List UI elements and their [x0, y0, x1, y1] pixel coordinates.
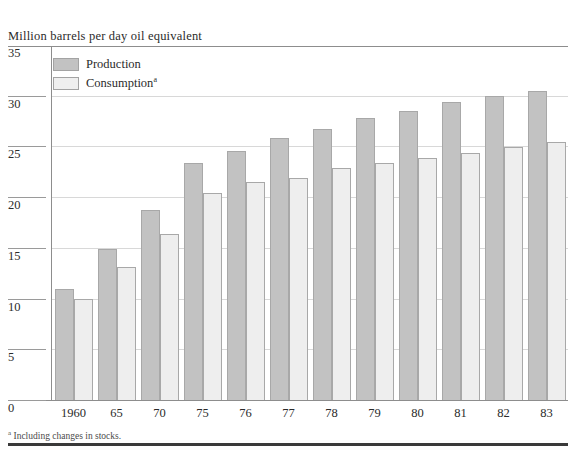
bottom-rule [8, 443, 568, 446]
y-axis-tick-label: 35 [8, 47, 21, 60]
bar-production-65[interactable] [98, 249, 117, 400]
bar-consumption-77[interactable] [289, 178, 308, 400]
x-axis-tick-label: 76 [224, 406, 267, 421]
bar-group [98, 45, 136, 400]
bar-group [485, 45, 523, 400]
bar-consumption-83[interactable] [547, 142, 566, 400]
y-axis-tick-label: 25 [8, 148, 21, 161]
chart-page: Million barrels per day oil equivalent 0… [0, 0, 576, 450]
bar-group [399, 45, 437, 400]
bar-consumption-1960[interactable] [74, 299, 93, 400]
bar-group [184, 45, 222, 400]
footnote-text: Including changes in stocks. [13, 431, 121, 441]
x-axis-tick-label: 79 [353, 406, 396, 421]
x-axis-tick-label: 70 [138, 406, 181, 421]
bar-production-82[interactable] [485, 96, 504, 400]
x-axis-tick-label: 78 [310, 406, 353, 421]
bar-consumption-80[interactable] [418, 158, 437, 400]
bar-production-78[interactable] [313, 129, 332, 400]
bar-consumption-78[interactable] [332, 168, 351, 400]
bar-group [356, 45, 394, 400]
bar-production-80[interactable] [399, 111, 418, 400]
bar-group [313, 45, 351, 400]
bar-production-76[interactable] [227, 151, 246, 401]
bar-group [270, 45, 308, 400]
bar-consumption-75[interactable] [203, 193, 222, 400]
bar-consumption-70[interactable] [160, 234, 179, 400]
bar-production-77[interactable] [270, 138, 289, 400]
bar-group [227, 45, 265, 400]
bar-production-70[interactable] [141, 210, 160, 400]
bar-production-79[interactable] [356, 118, 375, 400]
x-axis-tick-label: 1960 [52, 406, 95, 421]
x-axis-tick-label: 83 [525, 406, 568, 421]
x-axis-tick-label: 77 [267, 406, 310, 421]
y-axis-tick-label: 10 [8, 301, 21, 314]
bar-production-83[interactable] [528, 91, 547, 400]
bar-group [141, 45, 179, 400]
chart-footnote: a Including changes in stocks. [8, 429, 121, 441]
bar-series-container [52, 45, 568, 400]
x-axis-tick-label: 81 [439, 406, 482, 421]
bar-production-1960[interactable] [55, 289, 74, 400]
y-axis-tick-label: 20 [8, 199, 21, 212]
bar-consumption-82[interactable] [504, 147, 523, 400]
x-axis-line [8, 400, 568, 401]
y-axis-tick-label: 15 [8, 250, 21, 263]
x-axis-tick-label: 65 [95, 406, 138, 421]
x-axis-tick-label: 82 [482, 406, 525, 421]
y-axis-tick-label: 0 [8, 402, 14, 415]
bar-consumption-65[interactable] [117, 267, 136, 400]
bar-group [55, 45, 93, 400]
y-axis-tick-label: 30 [8, 98, 21, 111]
bar-production-75[interactable] [184, 163, 203, 400]
y-axis-tick-label: 5 [8, 351, 14, 364]
x-axis-tick-label: 75 [181, 406, 224, 421]
x-axis-tick-label: 80 [396, 406, 439, 421]
bar-production-81[interactable] [442, 102, 461, 400]
bar-consumption-79[interactable] [375, 163, 394, 400]
bar-consumption-76[interactable] [246, 182, 265, 400]
bar-consumption-81[interactable] [461, 153, 480, 400]
bar-group [442, 45, 480, 400]
footnote-marker: a [8, 429, 11, 437]
bar-group [528, 45, 566, 400]
